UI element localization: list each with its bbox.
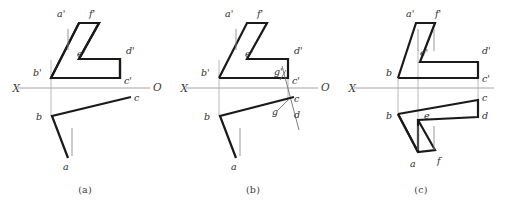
axis-label-x: X: [12, 82, 21, 94]
label-a: a: [63, 161, 69, 172]
label-g: g: [272, 106, 278, 117]
label-c: c: [482, 92, 488, 103]
label-c-prime: c': [124, 75, 132, 86]
label-c-prime: c': [482, 73, 490, 84]
panel-a-caption: (a): [0, 184, 170, 195]
top-view-polyline: [220, 97, 294, 158]
panel-c-caption: (c): [336, 184, 506, 195]
label-a-prime: a': [57, 8, 65, 19]
label-b-prime: b': [201, 67, 210, 78]
label-f-prime: f': [434, 8, 441, 19]
figure-panel-c: X a' f' e' d' b c' b e c d a: [336, 0, 506, 212]
label-e-prime: e': [245, 48, 253, 59]
label-a: a: [410, 158, 416, 169]
figure-sheet: X O a' f' e' d' b' c' b c a (a): [0, 0, 506, 212]
front-view-polyline: [398, 23, 478, 78]
label-d: d: [294, 109, 300, 120]
label-b: b: [386, 110, 392, 121]
label-d-prime: d': [482, 45, 491, 56]
label-d-prime: d': [126, 45, 135, 56]
label-d: d: [482, 110, 488, 121]
axis-label-x: X: [348, 82, 357, 94]
label-c: c: [294, 93, 300, 104]
figure-panel-a: X O a' f' e' d' b' c' b c a (a): [0, 0, 170, 212]
figure-c-drawing: X a' f' e' d' b c' b e c d a: [336, 0, 506, 185]
figure-b-drawing: X O a' f' e' d' b' g' c' b c g: [168, 0, 338, 185]
label-a-prime: a': [225, 8, 233, 19]
label-c: c: [134, 92, 140, 103]
label-e-prime: e': [420, 47, 428, 58]
label-b: b: [204, 111, 210, 122]
label-b: b: [36, 111, 42, 122]
top-view-polyline: [52, 97, 131, 158]
label-b-prime: b: [386, 67, 392, 78]
label-f-prime: f': [88, 8, 95, 19]
figure-panel-b: X O a' f' e' d' b' g' c' b c g: [168, 0, 338, 212]
axis-label-o: O: [321, 81, 330, 93]
label-c-prime: c': [292, 75, 300, 86]
label-g-prime: g': [274, 66, 283, 77]
panel-b-caption: (b): [168, 184, 338, 195]
label-a: a: [231, 161, 237, 172]
label-e: e: [424, 110, 430, 121]
axis-label-o: O: [153, 81, 162, 93]
label-d-prime: d': [294, 45, 303, 56]
front-view-outline: [51, 23, 120, 78]
label-f: f: [436, 155, 442, 166]
top-view-polyline: [398, 100, 478, 152]
label-f-prime: f': [256, 8, 263, 19]
front-view-polyline: [51, 23, 120, 78]
label-e-prime: e': [77, 48, 85, 59]
figure-a-drawing: X O a' f' e' d' b' c' b c a: [0, 0, 170, 185]
label-b-prime: b': [33, 67, 42, 78]
axis-label-x: X: [180, 82, 189, 94]
label-a-prime: a': [406, 8, 414, 19]
